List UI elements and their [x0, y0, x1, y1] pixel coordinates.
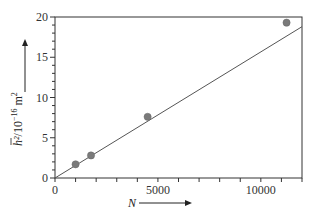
y-tick-label: 5	[42, 131, 48, 145]
x-axis-arrow-head-icon	[185, 200, 192, 206]
y-label-exp: −16	[10, 109, 19, 122]
y-tick-label: 0	[42, 171, 48, 185]
x-tick-label: 5000	[146, 183, 170, 197]
x-tick-label: 10000	[246, 183, 276, 197]
data-points	[72, 19, 290, 168]
y-label-symbol: h²	[11, 136, 25, 146]
data-point	[87, 152, 94, 159]
x-axis-label: N	[127, 196, 137, 210]
x-axis-ticks: 0500010000	[52, 178, 302, 197]
x-tick-label: 0	[52, 183, 58, 197]
y-axis-ticks: 05101520	[36, 10, 55, 185]
y-label-tail: m	[11, 96, 25, 109]
data-point	[144, 113, 151, 120]
y-axis-arrow-head-icon	[22, 39, 28, 46]
chart: 0500010000 05101520 N h²/10−16 m2	[0, 0, 318, 217]
y-label-unit: /10	[11, 121, 25, 136]
y-label-tail-exp: 2	[10, 92, 19, 96]
svg-text:h²/10−16 m2: h²/10−16 m2	[10, 92, 25, 146]
y-tick-label: 15	[36, 50, 48, 64]
y-tick-label: 10	[36, 91, 48, 105]
y-axis-label: h²/10−16 m2	[10, 92, 25, 146]
data-point	[72, 161, 79, 168]
data-point	[283, 19, 290, 26]
y-tick-label: 20	[36, 10, 48, 24]
